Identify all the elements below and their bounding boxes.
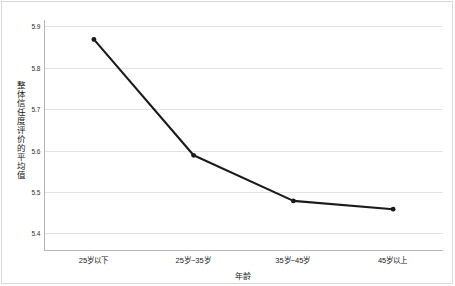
gridline [44,68,443,69]
x-axis-title: 年龄 [235,270,251,281]
x-tick-label: 25岁以下 [79,254,108,265]
y-tick-label: 5.8 [19,65,41,72]
x-tick-label: 45岁以上 [378,254,407,265]
y-tick-label: 5.4 [19,230,41,237]
y-axis-tick-labels: 5.9 5.8 5.7 5.6 5.5 5.4 [16,2,41,286]
chart-frame: 整体信任度评价的平均值 5.9 5.8 5.7 5.6 5.5 5.4 25岁以… [1,1,453,284]
x-axis-line [44,250,443,251]
gridline [44,151,443,152]
y-axis-line [44,20,45,251]
gridline [44,233,443,234]
y-tick-label: 5.7 [19,106,41,113]
plot-area [44,22,443,250]
gridline [44,109,443,110]
y-tick-label: 5.9 [19,23,41,30]
gridline [44,26,443,27]
x-tick-label: 35岁~45岁 [275,254,310,265]
y-tick-label: 5.6 [19,148,41,155]
x-tick-label: 25岁~35岁 [176,254,211,265]
y-tick-label: 5.5 [19,189,41,196]
gridline [44,192,443,193]
